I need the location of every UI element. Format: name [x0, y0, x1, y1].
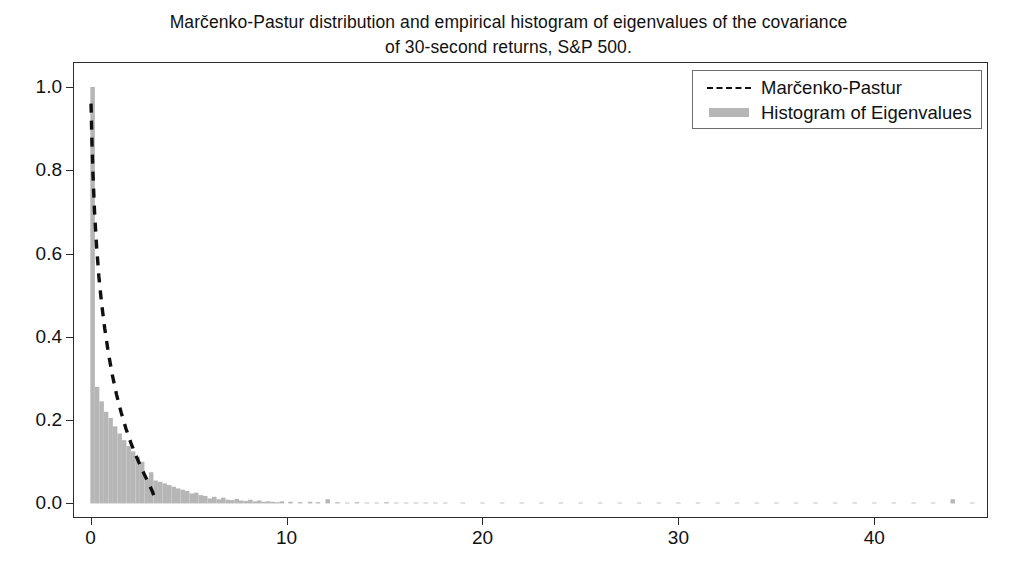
histogram-bar — [559, 503, 564, 504]
histogram-bar — [99, 401, 104, 503]
histogram-bar — [355, 502, 360, 503]
x-axis-tick-label: 10 — [257, 527, 317, 549]
histogram-bar — [423, 503, 428, 504]
x-axis-tick-mark — [91, 518, 92, 525]
y-axis-tick-label: 1.0 — [6, 76, 62, 98]
histogram-bar — [113, 426, 118, 503]
histogram-bar — [813, 503, 818, 504]
y-axis-tick-mark — [66, 420, 73, 421]
histogram-bar — [931, 503, 936, 504]
histogram-bar — [131, 451, 136, 503]
y-axis-tick-label: 0.2 — [6, 409, 62, 431]
histogram-bar — [194, 493, 199, 504]
plot-area — [73, 62, 988, 518]
histogram-bar — [235, 499, 240, 504]
histogram-bar — [345, 503, 350, 504]
x-axis-tick-mark — [287, 518, 288, 525]
y-axis-tick-mark — [66, 254, 73, 255]
histogram-bar — [203, 496, 208, 504]
histogram-bar — [414, 503, 419, 504]
histogram-bar — [755, 503, 760, 504]
histogram-bar — [892, 503, 897, 504]
histogram-bar — [617, 503, 622, 504]
histogram-bar — [108, 418, 113, 503]
y-axis-tick-mark — [66, 170, 73, 171]
histogram-bar — [208, 498, 213, 503]
legend-label: Marčenko-Pastur — [755, 77, 902, 99]
histogram-bar — [443, 503, 448, 504]
histogram-bar — [404, 503, 409, 504]
histogram-bar — [140, 462, 145, 504]
y-axis: 0.00.20.40.60.81.0 — [0, 0, 62, 584]
histogram-bar — [189, 493, 194, 503]
y-axis-tick-mark — [66, 87, 73, 88]
histogram-bar — [461, 503, 466, 504]
histogram-bar — [578, 503, 583, 504]
histogram-bar — [230, 500, 235, 503]
histogram-bar — [288, 502, 293, 504]
histogram-bar — [950, 499, 955, 503]
histogram-bar — [217, 499, 222, 503]
legend-item-histogram: Histogram of Eigenvalues — [703, 100, 973, 125]
histogram-bar — [171, 487, 176, 504]
histogram-bar — [308, 502, 313, 504]
histogram-bar — [266, 501, 271, 503]
histogram-bar — [480, 503, 485, 504]
histogram-bar — [198, 495, 203, 503]
histogram-bar — [280, 501, 285, 503]
x-axis-tick-label: 0 — [61, 527, 121, 549]
histogram-bar — [911, 503, 916, 504]
histogram-bar — [735, 503, 740, 504]
histogram-bar — [316, 502, 321, 503]
histogram-bar — [539, 503, 544, 504]
histogram-bar — [794, 503, 799, 504]
histogram-bar — [500, 503, 505, 504]
histogram-bar — [872, 503, 877, 504]
x-axis-tick-label: 20 — [452, 527, 512, 549]
histogram-bar — [657, 503, 662, 504]
histogram-bar — [275, 502, 280, 503]
histogram-bar — [104, 412, 109, 504]
histogram-bar — [970, 503, 975, 504]
histogram-bar — [384, 502, 389, 503]
histogram-bar — [519, 503, 524, 504]
x-axis-tick-label: 40 — [844, 527, 904, 549]
histogram-bar — [853, 503, 858, 504]
histogram-bar — [365, 503, 370, 504]
histogram-bar — [221, 498, 226, 504]
histogram-bar — [433, 503, 438, 504]
histogram-bar — [394, 503, 399, 504]
histogram-bar — [833, 503, 838, 504]
x-axis-tick-mark — [678, 518, 679, 525]
legend-label: Histogram of Eigenvalues — [755, 102, 972, 124]
page-title: Marčenko-Pastur distribution and empiric… — [0, 10, 1017, 60]
histogram-bar — [598, 503, 603, 504]
histogram-bar — [271, 502, 276, 504]
histogram-bar — [162, 483, 167, 503]
histogram-bar — [212, 497, 217, 504]
histogram-bar — [637, 503, 642, 504]
histogram-bar — [176, 488, 181, 503]
histogram-bar — [226, 500, 231, 504]
histogram-bar — [185, 491, 190, 503]
legend-item-marcenko-pastur: Marčenko-Pastur — [703, 75, 973, 100]
histogram-bar — [374, 503, 379, 504]
histogram-bar — [180, 490, 185, 504]
y-axis-tick-mark — [66, 503, 73, 504]
histogram-bar — [262, 502, 267, 504]
dashed-line-key-icon — [703, 87, 755, 89]
histogram-bar — [774, 503, 779, 504]
histogram-bar — [298, 502, 303, 503]
histogram-bar — [335, 502, 340, 503]
histogram-bar — [144, 478, 149, 503]
x-axis-tick-mark — [874, 518, 875, 525]
y-axis-tick-mark — [66, 337, 73, 338]
histogram-bar — [715, 503, 720, 504]
histogram-bar — [117, 433, 122, 503]
histogram-bar — [122, 440, 127, 503]
x-axis-tick-mark — [482, 518, 483, 525]
y-axis-tick-label: 0.8 — [6, 159, 62, 181]
histogram-bar — [257, 501, 262, 504]
y-axis-tick-label: 0.0 — [6, 492, 62, 514]
histogram-bar — [167, 485, 172, 503]
